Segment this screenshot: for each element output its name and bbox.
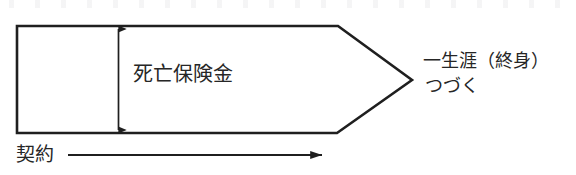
diagram-vector-layer [0, 0, 576, 175]
figure-canvas: 死亡保険金 一生涯（終身） つづく 契約 [0, 0, 576, 175]
contract-start-label: 契約 [16, 145, 54, 164]
death-benefit-label: 死亡保険金 [133, 64, 233, 84]
lifetime-whole-life-label: 一生涯（終身） [423, 52, 549, 70]
continues-label: つづく [425, 77, 479, 95]
